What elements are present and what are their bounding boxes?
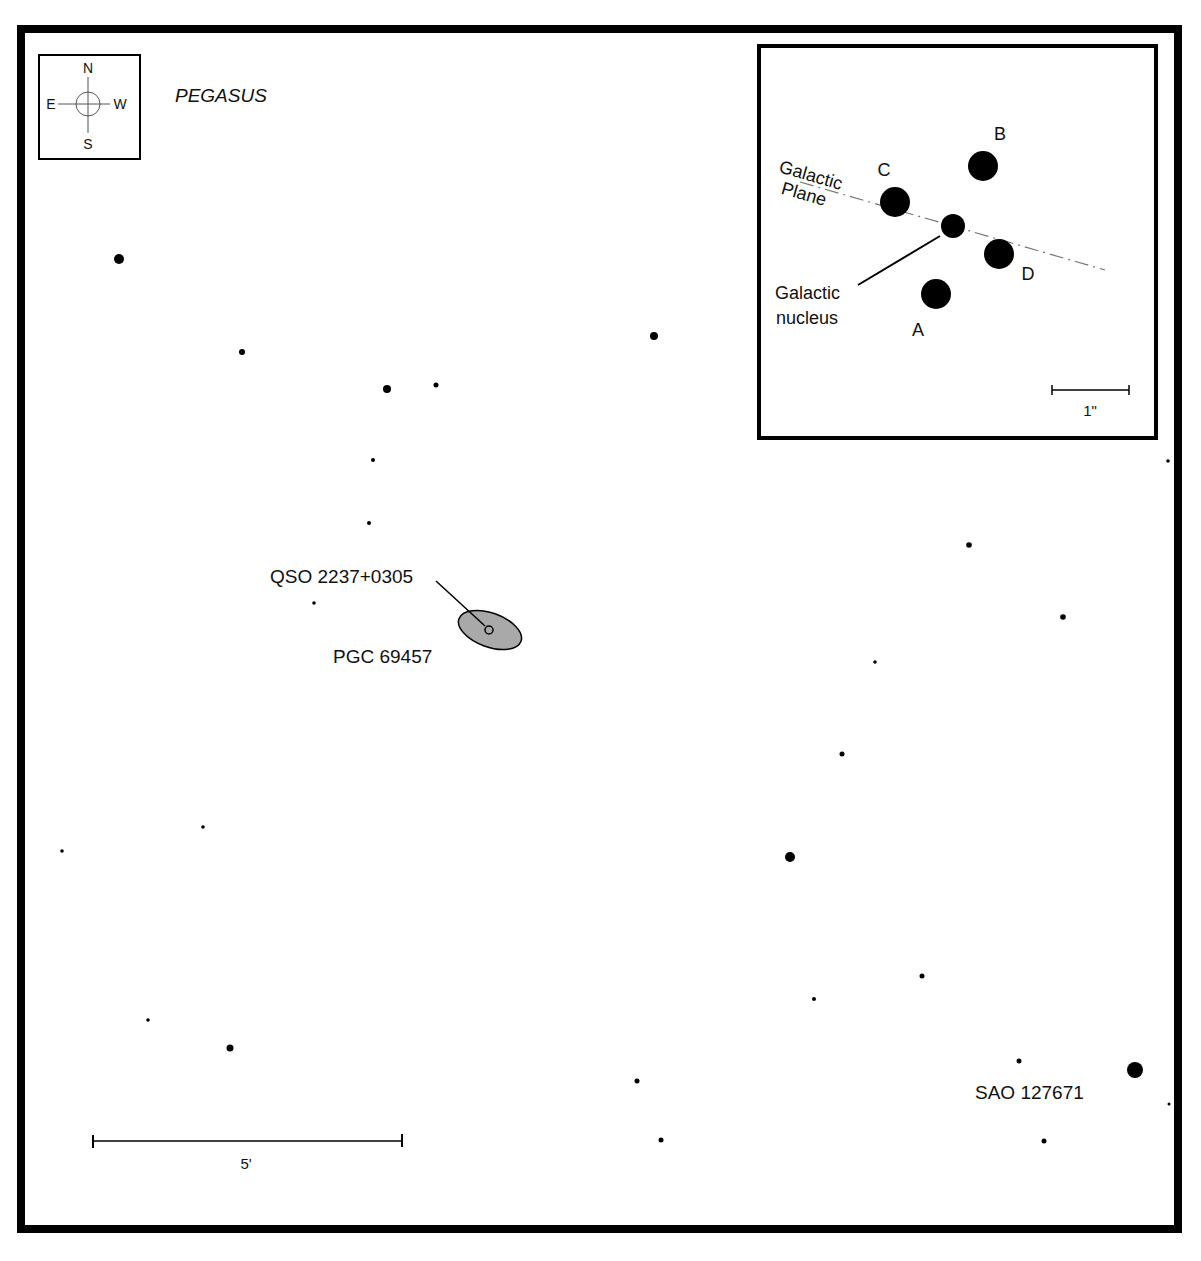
- lensed-image-label-d: D: [1022, 264, 1035, 284]
- star-dot[interactable]: [367, 521, 371, 525]
- inset-scale-label: 1": [1083, 402, 1097, 419]
- star-dot[interactable]: [60, 849, 64, 853]
- inset-frame: [759, 46, 1156, 438]
- finder-chart: N S E W PEGASUS QSO 2237+0305 PGC 69457 …: [0, 0, 1201, 1261]
- star-dot[interactable]: [146, 1018, 150, 1022]
- star-dot[interactable]: [201, 825, 205, 829]
- lensed-image-a[interactable]: [921, 279, 951, 309]
- star-dot[interactable]: [1042, 1139, 1047, 1144]
- star-dot[interactable]: [785, 852, 795, 862]
- star-dot[interactable]: [1166, 459, 1170, 463]
- scale-bar-label: 5': [240, 1155, 251, 1172]
- star-dot[interactable]: [966, 542, 972, 548]
- galaxy-label: PGC 69457: [333, 646, 432, 667]
- star-dot[interactable]: [1017, 1059, 1022, 1064]
- star-dot[interactable]: [873, 660, 877, 664]
- compass-north-label: N: [83, 60, 93, 76]
- star-dot[interactable]: [635, 1079, 640, 1084]
- star-dot[interactable]: [650, 332, 658, 340]
- star-dot[interactable]: [371, 458, 375, 462]
- star-dot[interactable]: [812, 997, 816, 1001]
- star-dot[interactable]: [1060, 614, 1066, 620]
- star-dot[interactable]: [239, 349, 245, 355]
- star-dot[interactable]: [1168, 1103, 1171, 1106]
- compass-west-label: W: [113, 96, 127, 112]
- lensed-image-label-b: B: [994, 124, 1006, 144]
- star-dot[interactable]: [920, 974, 925, 979]
- star-dot[interactable]: [383, 385, 391, 393]
- inset-panel: Galactic Plane ABCD Galactic nucleus 1": [759, 46, 1156, 438]
- star-dot[interactable]: [434, 383, 439, 388]
- star-dot[interactable]: [659, 1138, 664, 1143]
- bright-star-label: SAO 127671: [975, 1082, 1084, 1103]
- lensed-image-label-a: A: [912, 320, 924, 340]
- lensed-image-label-c: C: [878, 160, 891, 180]
- lensed-image-d[interactable]: [984, 239, 1014, 269]
- nucleus-label-line1: Galactic: [775, 283, 840, 303]
- star-dot[interactable]: [1127, 1062, 1143, 1078]
- star-dot[interactable]: [114, 254, 124, 264]
- lensed-image-b[interactable]: [968, 151, 998, 181]
- lensed-image-c[interactable]: [880, 187, 910, 217]
- star-dot[interactable]: [840, 752, 845, 757]
- qso-label: QSO 2237+0305: [270, 566, 413, 587]
- nucleus-label-line2: nucleus: [776, 308, 838, 328]
- star-dot[interactable]: [312, 601, 316, 605]
- star-dot[interactable]: [227, 1045, 234, 1052]
- galactic-nucleus-dot[interactable]: [941, 214, 965, 238]
- constellation-label: PEGASUS: [175, 85, 267, 106]
- compass-east-label: E: [46, 96, 55, 112]
- compass-south-label: S: [83, 136, 92, 152]
